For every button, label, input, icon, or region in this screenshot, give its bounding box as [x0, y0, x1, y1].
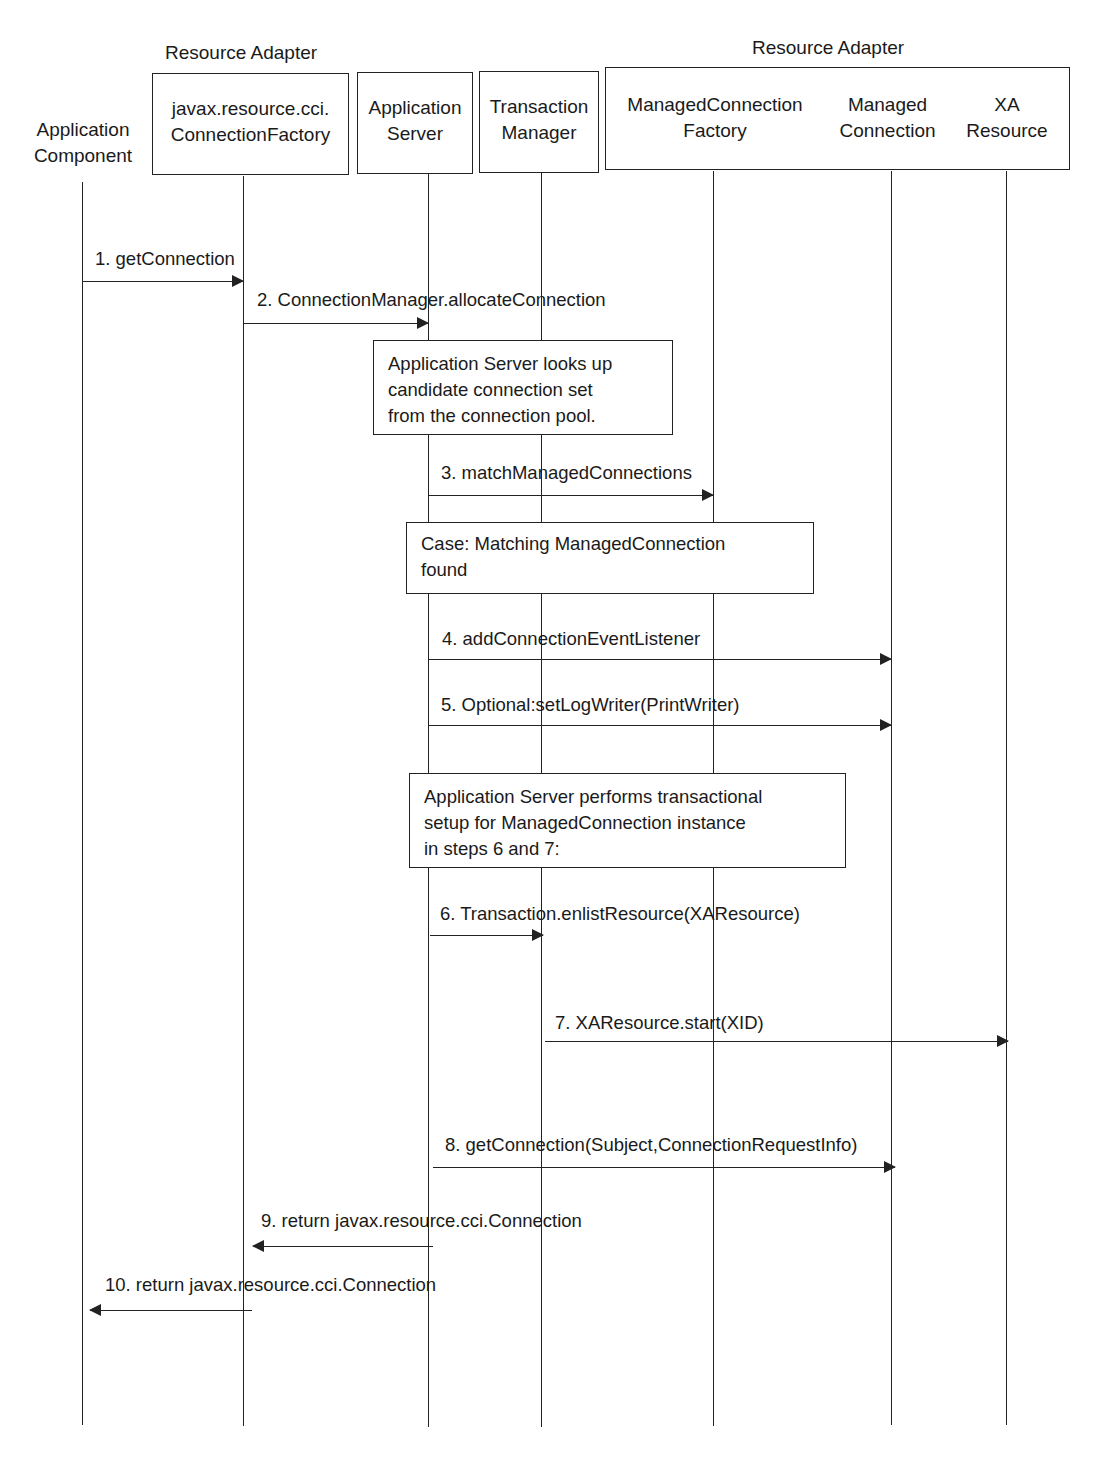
note-line: Case: Matching ManagedConnection	[421, 531, 799, 557]
participant-managed-connection-factory: ManagedConnection Factory	[610, 92, 820, 144]
note-line: setup for ManagedConnection instance	[424, 810, 831, 836]
participant-label-line2: Component	[20, 143, 146, 169]
participant-label-line1: XA	[952, 92, 1062, 118]
note-transactional-setup: Application Server performs transactiona…	[409, 773, 846, 868]
participant-label-line2: ConnectionFactory	[152, 122, 349, 148]
group-label-resource-adapter-left: Resource Adapter	[165, 42, 317, 64]
message-arrow-4	[428, 659, 891, 660]
message-label-1: 1. getConnection	[95, 248, 235, 270]
message-label-2: 2. ConnectionManager.allocateConnection	[257, 289, 606, 311]
message-label-3: 3. matchManagedConnections	[441, 462, 692, 484]
note-line: from the connection pool.	[388, 403, 658, 429]
lifeline-application-component	[82, 182, 83, 1425]
message-label-10: 10. return javax.resource.cci.Connection	[105, 1274, 436, 1296]
participant-label-line1: Application	[357, 95, 473, 121]
participant-connection-factory: javax.resource.cci. ConnectionFactory	[152, 96, 349, 148]
message-label-4: 4. addConnectionEventListener	[442, 628, 700, 650]
participant-label-line1: Application	[20, 117, 146, 143]
message-arrow-6	[430, 935, 543, 936]
message-label-9: 9. return javax.resource.cci.Connection	[261, 1210, 582, 1232]
note-line: in steps 6 and 7:	[424, 836, 831, 862]
message-label-7: 7. XAResource.start(XID)	[555, 1012, 764, 1034]
note-line: Application Server performs transactiona…	[424, 784, 831, 810]
note-line: candidate connection set	[388, 377, 658, 403]
participant-label-line1: ManagedConnection	[610, 92, 820, 118]
participant-label-line1: Transaction	[479, 94, 599, 120]
message-arrow-7	[545, 1041, 1008, 1042]
participant-label-line2: Connection	[825, 118, 950, 144]
lifeline-connection-factory	[243, 176, 244, 1426]
message-arrow-2	[243, 323, 428, 324]
note-line: Application Server looks up	[388, 351, 658, 377]
message-arrow-10	[90, 1310, 252, 1311]
message-label-6: 6. Transaction.enlistResource(XAResource…	[440, 903, 800, 925]
participant-application-server: Application Server	[357, 95, 473, 147]
participant-label-line2: Manager	[479, 120, 599, 146]
participant-managed-connection: Managed Connection	[825, 92, 950, 144]
participant-label-line2: Resource	[952, 118, 1062, 144]
message-arrow-8	[433, 1167, 895, 1168]
participant-label-line2: Factory	[610, 118, 820, 144]
lifeline-xa-resource	[1006, 171, 1007, 1425]
note-pool-lookup: Application Server looks up candidate co…	[373, 340, 673, 435]
participant-xa-resource: XA Resource	[952, 92, 1062, 144]
participant-transaction-manager: Transaction Manager	[479, 94, 599, 146]
participant-label-line1: Managed	[825, 92, 950, 118]
lifeline-managed-connection	[891, 171, 892, 1425]
message-arrow-9	[253, 1246, 433, 1247]
message-arrow-1	[82, 281, 243, 282]
message-label-5: 5. Optional:setLogWriter(PrintWriter)	[441, 694, 740, 716]
message-label-8: 8. getConnection(Subject,ConnectionReque…	[445, 1134, 857, 1156]
participant-label-line2: Server	[357, 121, 473, 147]
message-arrow-5	[428, 725, 891, 726]
note-line: found	[421, 557, 799, 583]
message-arrow-3	[428, 495, 713, 496]
note-matching-case: Case: Matching ManagedConnection found	[406, 522, 814, 594]
participant-label-line1: javax.resource.cci.	[152, 96, 349, 122]
group-label-resource-adapter-right: Resource Adapter	[752, 37, 904, 59]
participant-application-component: Application Component	[20, 117, 146, 169]
